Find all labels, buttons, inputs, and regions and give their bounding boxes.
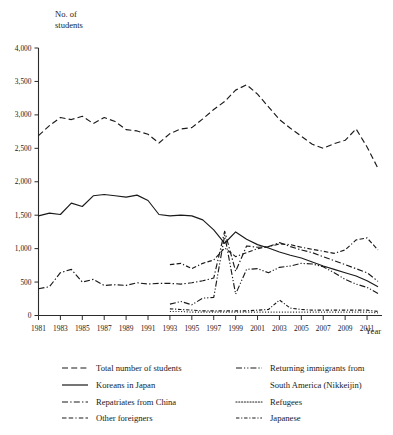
legend-label-3: Other foreigners — [96, 413, 153, 423]
legend-label-1: Koreans in Japan — [96, 380, 156, 390]
series-line-5 — [170, 311, 378, 312]
legend-label-2: Repatriates from China — [96, 397, 176, 407]
y-tick-label: 1,500 — [15, 211, 32, 220]
y-tick-label: 1,000 — [15, 244, 32, 253]
axes — [39, 48, 383, 316]
x-tick-label: 1995 — [184, 324, 199, 333]
chart-figure: No. of students 05001,0001,5002,0002,500… — [0, 0, 393, 435]
x-tick-label: 2007 — [316, 324, 331, 333]
chart-legend: Total number of studentsKoreans in Japan… — [62, 363, 365, 423]
series-line-4 — [170, 235, 378, 305]
series-lines — [39, 85, 379, 313]
x-tick-label: 1989 — [119, 324, 134, 333]
x-tick-label: 1997 — [206, 324, 221, 333]
series-line-6 — [170, 300, 378, 311]
x-tick-label: 1981 — [31, 324, 46, 333]
y-tick-label: 0 — [28, 311, 32, 320]
legend-label-6: Japanese — [270, 413, 301, 423]
y-axis-title-line2: students — [55, 20, 83, 30]
y-tick-label: 3,000 — [15, 110, 32, 119]
x-tick-label: 1993 — [163, 324, 178, 333]
x-tick-label: 2003 — [272, 324, 287, 333]
y-tick-label: 2,500 — [15, 144, 32, 153]
x-tick-label: 2005 — [294, 324, 309, 333]
x-tick-label: 1991 — [141, 324, 156, 333]
x-tick-label: 2009 — [338, 324, 353, 333]
y-tick-label: 2,000 — [15, 177, 32, 186]
x-tick-label: 1987 — [97, 324, 112, 333]
y-tick-label: 4,000 — [15, 44, 32, 53]
chart-canvas: No. of students 05001,0001,5002,0002,500… — [0, 0, 393, 435]
legend-label-4-cont: South America (Nikkeijin) — [270, 380, 362, 390]
series-line-2 — [39, 231, 379, 289]
legend-label-4: Returning immigrants from — [270, 363, 365, 373]
y-axis-title-line1: No. of — [55, 9, 77, 19]
x-tick-label: 1985 — [75, 324, 90, 333]
y-tick-label: 3,500 — [15, 77, 32, 86]
legend-label-5: Refugees — [270, 397, 303, 407]
x-tick-label: 1983 — [53, 324, 68, 333]
x-tick-label: 1999 — [228, 324, 243, 333]
series-line-3 — [170, 238, 378, 269]
y-axis-ticks: 05001,0001,5002,0002,5003,0003,5004,000 — [15, 44, 39, 321]
legend-label-0: Total number of students — [96, 363, 182, 373]
x-axis-title: Year — [365, 326, 381, 336]
x-tick-label: 2001 — [250, 324, 265, 333]
y-tick-label: 500 — [20, 278, 31, 287]
series-line-0 — [39, 85, 379, 169]
series-line-1 — [39, 194, 379, 286]
x-axis-ticks: 1981198319851987198919911993199519971999… — [31, 316, 374, 333]
